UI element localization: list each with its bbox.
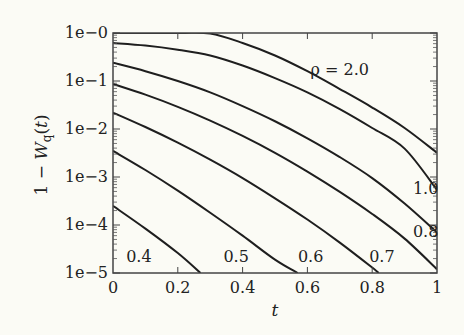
y-tick-label: 1e−3 [65,167,108,186]
curve-label: 0.5 [223,247,248,266]
curves [113,33,437,273]
y-tick-label: 1e−4 [65,215,108,234]
y-axis-label: 1 − Wq(t) [31,114,54,195]
y-tick-label: 1e−2 [65,119,108,138]
curve-label: 1.0 [413,179,438,198]
x-tick-label: 0.4 [230,278,255,297]
x-tick-label: 0.6 [295,278,320,297]
curve-0-8 [113,63,437,233]
curve-label: 0.7 [369,247,394,266]
x-tick-label: 0.2 [165,278,190,297]
x-tick-label: 1 [432,278,442,297]
curve-label: 0.6 [298,247,323,266]
y-tick-label: 1e−1 [65,71,108,90]
curve-labels: ρ = 2.01.00.80.70.60.50.4 [126,60,438,266]
x-axis-label: t [272,300,279,320]
curve-label: 0.8 [413,222,438,241]
curve-label: 0.4 [126,247,151,266]
chart: 00.20.40.60.811e−01e−11e−21e−31e−41e−5 ρ… [0,0,464,335]
y-tick-label: 1e−0 [65,23,108,42]
x-tick-label: 0.8 [359,278,384,297]
curve-label: ρ = 2.0 [311,60,369,79]
x-tick-label: 0 [108,278,118,297]
y-tick-label: 1e−5 [65,263,108,282]
